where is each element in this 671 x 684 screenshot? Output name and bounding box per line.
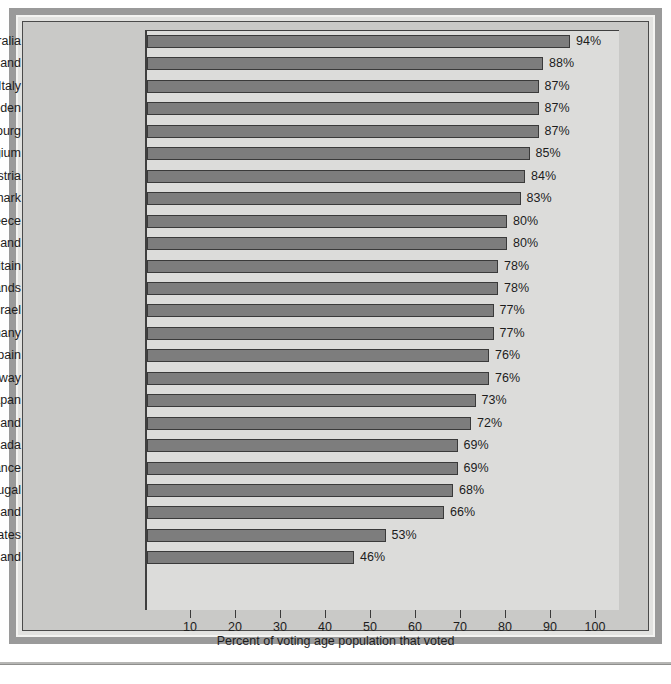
bar-row: Sweden87% [22,102,649,124]
category-label: Netherlands [0,282,21,295]
bar [147,417,471,430]
bar-row: United States53% [22,529,649,551]
x-axis-tick-label: 90 [530,620,570,634]
category-label: Norway [0,372,21,385]
bar-value-label: 46% [360,551,385,564]
bar [147,394,476,407]
bar-value-label: 77% [500,327,525,340]
bar [147,260,498,273]
bar-row: Australia94% [22,35,649,57]
category-label: Great Britain [0,260,21,273]
category-label: Spain [0,349,21,362]
x-axis-title: Percent of voting age population that vo… [22,634,649,648]
bar-value-label: 80% [513,237,538,250]
bar-value-label: 94% [576,35,601,48]
page-bottom-rule [0,664,671,665]
category-label: Portugal [0,484,21,497]
bar [147,327,494,340]
bar [147,304,494,317]
bar [147,372,489,385]
x-axis-tick [550,610,551,618]
category-label: Australia [0,35,21,48]
category-label: Canada [0,439,21,452]
bar-row: Portugal68% [22,484,649,506]
x-axis-tick-label: 80 [485,620,525,634]
bar-value-label: 53% [392,529,417,542]
bar [147,125,539,138]
bar-value-label: 69% [464,439,489,452]
bar-row: Denmark83% [22,192,649,214]
category-label: West Germany [0,327,21,340]
bar [147,102,539,115]
x-axis-tick-label: 100 [575,620,615,634]
bar-value-label: 76% [495,349,520,362]
bar-value-label: 83% [527,192,552,205]
bar [147,237,507,250]
bar-row: Belgium85% [22,147,649,169]
bar-value-label: 77% [500,304,525,317]
category-label: Italy [0,80,21,93]
bar-row: Switzerland46% [22,551,649,573]
x-axis-tick-label: 40 [305,620,345,634]
bar-value-label: 87% [545,80,570,93]
x-axis-tick [415,610,416,618]
bar-value-label: 80% [513,215,538,228]
category-label: France [0,462,21,475]
bar-value-label: 78% [504,260,529,273]
category-label: Ireland [0,506,21,519]
bar-row: Italy87% [22,80,649,102]
bar-row: Canada69% [22,439,649,461]
category-label: United States [0,529,21,542]
x-axis-tick-label: 10 [170,620,210,634]
category-label: Japan [0,394,21,407]
bar-row: Japan73% [22,394,649,416]
x-axis-tick [235,610,236,618]
bar-value-label: 88% [549,57,574,70]
bar-row: Austria84% [22,170,649,192]
x-axis-tick [460,610,461,618]
bar-value-label: 72% [477,417,502,430]
bar-row: New Zealand80% [22,237,649,259]
bar [147,484,453,497]
category-label: Switzerland [0,551,21,564]
bar-row: Finland72% [22,417,649,439]
page-canvas: Australia94%Iceland88%Italy87%Sweden87%L… [0,0,671,684]
category-label: Luxembourg [0,125,21,138]
bar-value-label: 76% [495,372,520,385]
bar-value-label: 87% [545,102,570,115]
bar-row: Greece80% [22,215,649,237]
bar [147,439,458,452]
x-axis-tick-label: 50 [350,620,390,634]
category-label: Israel [0,304,21,317]
x-axis-tick-label: 30 [260,620,300,634]
x-axis-tick-label: 20 [215,620,255,634]
bar-value-label: 85% [536,147,561,160]
bar [147,147,530,160]
bar-value-label: 87% [545,125,570,138]
bar-row: Iceland88% [22,57,649,79]
bar [147,462,458,475]
bar-row: France69% [22,462,649,484]
category-label: Finland [0,417,21,430]
bar-row: Netherlands78% [22,282,649,304]
bar-value-label: 73% [482,394,507,407]
x-axis-tick [190,610,191,618]
bar-row: Luxembourg87% [22,125,649,147]
bar [147,551,354,564]
bar-row: Israel77% [22,304,649,326]
bar-value-label: 78% [504,282,529,295]
bar [147,192,521,205]
category-label: Iceland [0,57,21,70]
bar [147,349,489,362]
bar-row: Spain76% [22,349,649,371]
bar [147,170,525,183]
bar-row: Norway76% [22,372,649,394]
bar [147,35,570,48]
bar [147,282,498,295]
bar-row: Ireland66% [22,506,649,528]
bar-row: Great Britain78% [22,260,649,282]
category-label: New Zealand [0,237,21,250]
category-label: Sweden [0,102,21,115]
x-axis-tick [595,610,596,618]
bar-value-label: 68% [459,484,484,497]
